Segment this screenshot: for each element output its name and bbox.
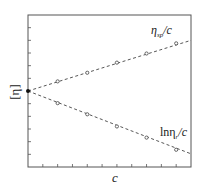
data-point <box>175 42 178 45</box>
data-point <box>145 52 148 55</box>
series-label-ln-eta-r: lnηr/c <box>160 125 188 141</box>
data-point <box>145 136 148 139</box>
chart: [η] c ηsp/c lnηr/c <box>0 0 202 194</box>
data-point <box>115 61 118 64</box>
intercept-point <box>26 89 30 93</box>
plot-frame <box>28 15 191 167</box>
fit-line <box>28 40 191 91</box>
data-point <box>175 148 178 151</box>
fit-line <box>28 91 191 154</box>
data-point <box>56 80 59 83</box>
data-point <box>56 102 59 105</box>
series-label-eta-sp: ηsp/c <box>151 23 173 39</box>
data-point <box>86 113 89 116</box>
data-point <box>115 125 118 128</box>
data-point <box>86 71 89 74</box>
x-axis-label: c <box>112 170 118 185</box>
series-1 <box>28 91 191 154</box>
series-0 <box>28 40 191 91</box>
y-axis-label: [η] <box>7 84 22 99</box>
